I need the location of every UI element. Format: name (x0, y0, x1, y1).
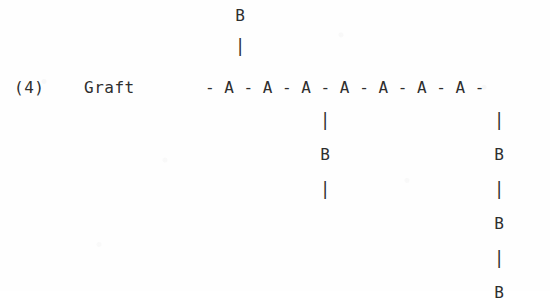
branch-up-unit-1: B | (227, 8, 253, 55)
branch-node-b: B (486, 285, 512, 301)
branch-bond-vertical: | (227, 38, 253, 55)
figure-number: (4) (14, 80, 44, 96)
branch-down-unit-7: | B | B | B (486, 112, 512, 301)
branch-bond-vertical: | (312, 112, 338, 129)
figure-label: Graft (84, 80, 135, 96)
branch-node-b: B (312, 147, 338, 163)
branch-node-b: B (227, 8, 253, 24)
branch-bond-vertical: | (486, 112, 512, 129)
branch-node-b: B (486, 216, 512, 232)
branch-down-unit-3: | B | (312, 112, 338, 198)
branch-bond-vertical-terminal: | (312, 181, 338, 198)
polymer-backbone-chain: - A - A - A - A - A - A - A - (205, 80, 484, 96)
branch-bond-vertical: | (486, 250, 512, 267)
branch-node-b: B (486, 147, 512, 163)
branch-bond-vertical: | (486, 181, 512, 198)
